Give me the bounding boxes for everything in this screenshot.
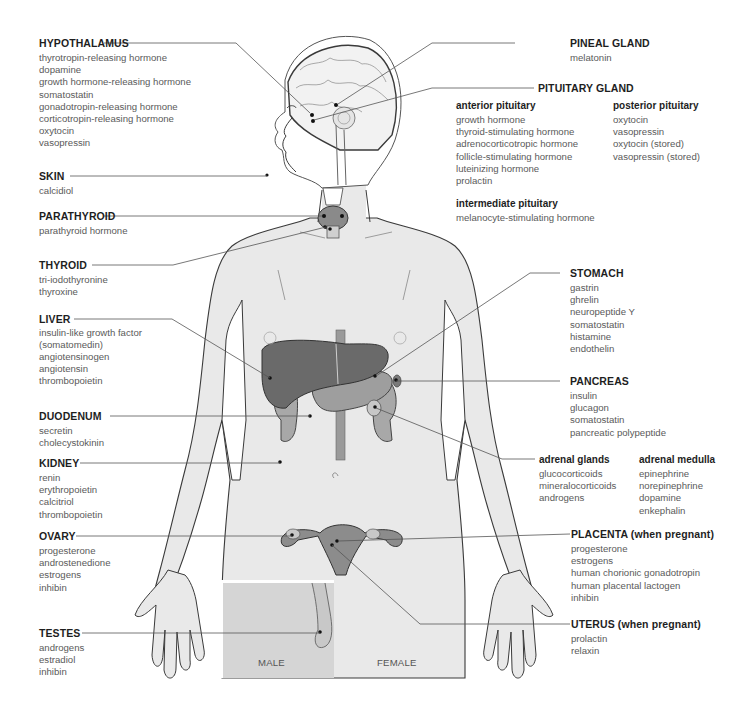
uterus-title: UTERUS (when pregnant) xyxy=(571,618,701,631)
hormone-item: androstenedione xyxy=(39,557,110,569)
duodenum-title: DUODENUM xyxy=(39,410,104,423)
hormone-item: progesterone xyxy=(39,545,110,557)
hormone-item: oxytocin xyxy=(39,125,191,137)
hormone-item: gonadotropin-releasing hormone xyxy=(39,101,191,113)
hormone-item: vasopressin (stored) xyxy=(613,151,700,163)
hormone-item: estrogens xyxy=(39,569,110,581)
hormone-item: norepinephrine xyxy=(639,480,715,492)
hormone-item: thyroid-stimulating hormone xyxy=(456,126,578,138)
posterior-pituitary-label: posterior pituitary oxytocin vasopressin… xyxy=(613,99,700,163)
skin-label: SKIN calcidiol xyxy=(39,170,73,197)
hormone-item: relaxin xyxy=(571,645,701,657)
hormone-item: androgens xyxy=(539,492,616,504)
adrenal-glands-title: adrenal glands xyxy=(539,453,616,466)
hormone-item: insulin xyxy=(570,390,666,402)
hormone-item: somatostatin xyxy=(570,414,666,426)
stomach-title: STOMACH xyxy=(570,267,635,280)
pancreas-title: PANCREAS xyxy=(570,375,666,388)
skin-title: SKIN xyxy=(39,170,73,183)
hormone-item: oxytocin xyxy=(613,114,700,126)
female-label: FEMALE xyxy=(377,657,417,668)
posterior-pituitary-title: posterior pituitary xyxy=(613,99,700,112)
anterior-pituitary-label: anterior pituitary growth hormone thyroi… xyxy=(456,99,578,187)
hormone-item: vasopressin xyxy=(613,126,700,138)
left-hand-outline xyxy=(135,570,204,678)
ovary-title: OVARY xyxy=(39,530,110,543)
hormone-item: growth hormone xyxy=(456,114,578,126)
hormone-item: inhibin xyxy=(39,582,110,594)
hormone-item: somatostatin xyxy=(39,89,191,101)
parathyroid-label: PARATHYROID parathyroid hormone xyxy=(39,210,128,237)
hypothalamus-title: HYPOTHALAMUS xyxy=(39,37,191,50)
hormone-item: thrombopoietin xyxy=(39,509,102,521)
hormone-item: ghrelin xyxy=(570,294,635,306)
intermediate-pituitary-label: intermediate pituitary melanocyte-stimul… xyxy=(456,197,595,224)
hormone-item: endothelin xyxy=(570,343,635,355)
hormone-item: follicle-stimulating hormone xyxy=(456,151,578,163)
hormone-item: estradiol xyxy=(39,654,84,666)
hormone-item: thrombopoietin xyxy=(39,375,142,387)
hormone-item: corticotropin-releasing hormone xyxy=(39,113,191,125)
hormone-item: oxytocin (stored) xyxy=(613,138,700,150)
hormone-item: epinephrine xyxy=(639,468,715,480)
hormone-item: histamine xyxy=(570,331,635,343)
testes-label: TESTES androgens estradiol inhibin xyxy=(39,627,84,679)
hormone-item: thyrotropin-releasing hormone xyxy=(39,52,191,64)
adrenal-medulla-label: adrenal medulla epinephrine norepinephri… xyxy=(639,453,715,517)
hormone-item: growth hormone-releasing hormone xyxy=(39,76,191,88)
placenta-title: PLACENTA (when pregnant) xyxy=(571,528,714,541)
hormone-item: inhibin xyxy=(571,592,714,604)
testes-title: TESTES xyxy=(39,627,84,640)
hormone-item: tri-iodothyronine xyxy=(39,274,108,286)
stomach-label: STOMACH gastrin ghrelin neuropeptide Y s… xyxy=(570,267,635,355)
hormone-item: glucagon xyxy=(570,402,666,414)
anterior-pituitary-title: anterior pituitary xyxy=(456,99,578,112)
liver-label: LIVER insulin-like growth factor (somato… xyxy=(39,313,142,387)
hormone-item: dopamine xyxy=(639,492,715,504)
intermediate-pituitary-title: intermediate pituitary xyxy=(456,197,595,210)
kidney-label: KIDNEY renin erythropoietin calcitriol t… xyxy=(39,457,102,521)
hormone-item: insulin-like growth factor xyxy=(39,328,142,339)
uterus-label: UTERUS (when pregnant) prolactin relaxin xyxy=(571,618,701,657)
parathyroid-title: PARATHYROID xyxy=(39,210,128,223)
pancreas-label: PANCREAS insulin glucagon somatostatin p… xyxy=(570,375,666,439)
hormone-item: erythropoietin xyxy=(39,484,102,496)
pituitary-gland-title: PITUITARY GLAND xyxy=(538,82,634,95)
hormone-item: melatonin xyxy=(570,52,650,64)
hormone-item: estrogens xyxy=(571,555,714,567)
pineal-gland-label: PINEAL GLAND melatonin xyxy=(570,37,650,64)
hormone-item: neuropeptide Y xyxy=(570,306,635,318)
hormone-item: secretin xyxy=(39,425,104,437)
thyroid-title: THYROID xyxy=(39,259,108,272)
liver-title: LIVER xyxy=(39,313,142,326)
hormone-item: angiotensin xyxy=(39,363,142,375)
male-label: MALE xyxy=(258,657,285,668)
hormone-item: (somatomedin) xyxy=(39,339,142,351)
hormone-item: enkephalin xyxy=(639,505,715,517)
hormone-item: adrenocorticotropic hormone xyxy=(456,138,578,150)
hormone-item: androgens xyxy=(39,642,84,654)
hormone-item: dopamine xyxy=(39,64,191,76)
hormone-item: calcitriol xyxy=(39,496,102,508)
hormone-item: cholecystokinin xyxy=(39,437,104,449)
hormone-item: thyroxine xyxy=(39,286,108,298)
kidney-title: KIDNEY xyxy=(39,457,102,470)
hypothalamus-label: HYPOTHALAMUS thyrotropin-releasing hormo… xyxy=(39,37,191,150)
thyroid-label: THYROID tri-iodothyronine thyroxine xyxy=(39,259,108,298)
hormone-item: pancreatic polypeptide xyxy=(570,427,666,439)
hormone-item: human chorionic gonadotropin xyxy=(571,567,714,579)
hormone-item: inhibin xyxy=(39,666,84,678)
hormone-item: human placental lactogen xyxy=(571,580,714,592)
hormone-item: glucocorticoids xyxy=(539,468,616,480)
hormone-item: prolactin xyxy=(456,175,578,187)
adrenal-medulla-title: adrenal medulla xyxy=(639,453,715,466)
hormone-item: somatostatin xyxy=(570,319,635,331)
hormone-item: parathyroid hormone xyxy=(39,225,128,237)
hormone-item: progesterone xyxy=(571,543,714,555)
adrenal-glands-label: adrenal glands glucocorticoids mineraloc… xyxy=(539,453,616,505)
head xyxy=(265,36,401,188)
hormone-item: mineralocorticoids xyxy=(539,480,616,492)
hormone-item: gastrin xyxy=(570,282,635,294)
duodenum-label: DUODENUM secretin cholecystokinin xyxy=(39,410,104,449)
ovary-label: OVARY progesterone androstenedione estro… xyxy=(39,530,110,594)
